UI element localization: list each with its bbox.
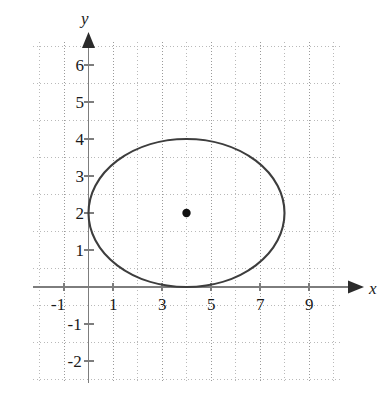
y-tick-label: 3 — [76, 168, 85, 185]
plot-canvas — [0, 0, 392, 396]
x-axis-label: x — [369, 280, 377, 297]
y-tick-label: 1 — [76, 242, 85, 259]
y-tick-label: 6 — [76, 57, 85, 74]
y-tick-label: -1 — [68, 316, 82, 333]
y-axis-label: y — [81, 10, 89, 27]
x-tick-label: -1 — [51, 296, 65, 313]
y-tick-label: 5 — [76, 94, 85, 111]
x-tick-label: 5 — [207, 296, 216, 313]
ellipse-graph-figure: -113579 654321-1-2 x y — [0, 0, 392, 396]
y-tick-label: 2 — [76, 205, 85, 222]
x-tick-label: 1 — [109, 296, 118, 313]
x-tick-label: 3 — [158, 296, 167, 313]
x-tick-label: 9 — [305, 296, 314, 313]
ellipse-center-point — [182, 209, 190, 217]
axis-arrowheads — [82, 32, 364, 294]
x-tick-label: 7 — [256, 296, 265, 313]
y-tick-label: -2 — [68, 353, 82, 370]
y-tick-label: 4 — [76, 131, 85, 148]
